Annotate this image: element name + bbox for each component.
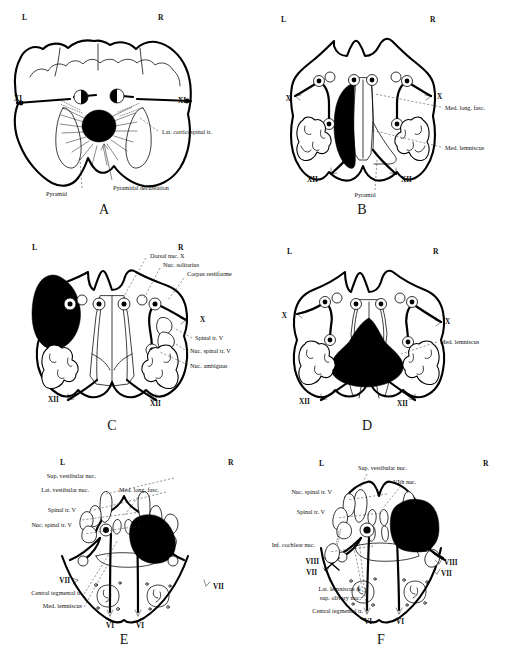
panel-a-right-marker: R xyxy=(158,13,164,22)
panel-c-label-xii-left: XII xyxy=(48,396,59,404)
panel-e: L R xyxy=(0,444,255,653)
panel-b: L R xyxy=(255,0,510,220)
panel-c-right-marker: R xyxy=(178,243,184,252)
panel-b-label-x-left: X xyxy=(286,95,292,103)
panel-d: L R xyxy=(255,222,510,440)
panel-e-nuc-spinal-tr-v-left xyxy=(82,526,97,543)
panel-d-label-xii-right: XII xyxy=(397,400,408,408)
panel-b-label-x-right: X xyxy=(437,93,443,101)
panel-a-label-lat-corticospinal-tr: Lat. corticospinal tr. xyxy=(162,128,212,135)
panel-f-label-viii-left: VIII xyxy=(305,558,319,566)
panel-c-label-dorsal-nuc-x: Dorsal nuc. X xyxy=(150,252,185,259)
panel-a-left-marker: L xyxy=(22,13,27,22)
panel-e-abducens-tract-right xyxy=(137,534,138,612)
panel-e-label-vi-right: VI xyxy=(136,622,144,630)
panel-f-label-central-tegmental-tr: Central tegmental tr. xyxy=(312,607,363,614)
panel-f-label-viii-right: VIII xyxy=(444,559,458,567)
panel-d-label-med-lemniscus: Med. lemniscus xyxy=(440,338,480,345)
panel-a-label-xi-left: XI xyxy=(14,95,22,103)
panel-b-nucdot-right-a xyxy=(405,79,410,84)
panel-b-label-xii-right: XII xyxy=(401,176,412,184)
panel-e-facial-genu-dot-left xyxy=(103,527,109,533)
panel-c-hypoglossal-dot-left xyxy=(97,302,102,307)
panel-b-hypoglossal-dot-left xyxy=(352,78,357,83)
panel-f-label-vith-nuc: VIth nuc. xyxy=(393,478,417,485)
panel-b-caption: B xyxy=(357,202,366,217)
panel-e-label-med-lemniscus: Med. lemniscus xyxy=(43,602,83,609)
panel-e-right-marker: R xyxy=(228,458,234,467)
panel-e-abducens-tract-left xyxy=(110,534,111,612)
panel-f-abducens-nuc-right-b xyxy=(382,526,389,541)
figure-plate: L R xyxy=(0,0,510,653)
panel-e-label-nuc-spinal-tr-v: Nuc. spinal tr. V xyxy=(31,521,72,528)
panel-b-label-pyramid: Pyramid xyxy=(355,191,377,198)
panel-e-label-sup-vestibular-nuc: Sup. vestibular nuc. xyxy=(47,472,97,479)
panel-f-caption: F xyxy=(377,632,385,647)
panel-a-label-xi-right: XI xyxy=(178,97,186,105)
panel-b-hypoglossal-dot-right xyxy=(370,78,375,83)
panel-c-label-xii-right: XII xyxy=(150,400,161,408)
panel-e-label-vii-right: VII xyxy=(213,583,224,591)
panel-f-label-lat-lemniscus: Lat. lemniscus & xyxy=(319,585,362,592)
panel-f-label-nuc-spinal-tr-v: Nuc. spinal tr. V xyxy=(291,488,332,495)
panel-c: L R xyxy=(0,222,255,440)
panel-d-nucdot-left-a xyxy=(323,300,328,305)
panel-e-vii-right-arrow xyxy=(204,580,210,586)
panel-f-left-marker: L xyxy=(319,459,324,468)
panel-a-caption: A xyxy=(99,202,110,217)
panel-b-nucdot-left-a xyxy=(317,79,322,84)
panel-a-pyramidal-decussation-mass xyxy=(82,110,116,142)
panel-f-label-vi-right: VI xyxy=(396,618,404,626)
panel-f-label-sup-vestibular-nuc: Sup. vestibular nuc. xyxy=(358,464,408,471)
panel-a-label-pyramidal-decussation: Pyramidal decussation xyxy=(113,184,169,191)
panel-a-label-pyramid: Pyramid xyxy=(46,190,68,197)
panel-d-nucdot-right-c xyxy=(406,340,411,345)
panel-d-left-marker: L xyxy=(287,247,292,256)
panel-f-label-vii-left: VII xyxy=(306,569,317,577)
panel-d-label-xii-left: XII xyxy=(299,398,310,406)
panel-c-label-nuc-solitarius: Nuc. solitarius xyxy=(163,261,200,268)
panel-e-label-spinal-tr-v: Spinal tr. V xyxy=(48,506,77,513)
panel-f-label-sup-olivary-nuc: sup. olivary nuc. xyxy=(320,594,362,601)
panel-b-label-xii-left: XII xyxy=(307,176,318,184)
panel-b-label-med-long-fasc: Med. long. fasc. xyxy=(445,104,485,111)
panel-f-abducens-nuc-right xyxy=(380,510,388,526)
panel-e-label-lat-vestibular-nuc: Lat. vestibular nuc. xyxy=(41,486,89,493)
panel-d-label-x-left: X xyxy=(282,312,288,320)
panel-c-nucdot-right-a xyxy=(153,302,158,307)
panel-c-nucleus-left-b xyxy=(77,295,87,305)
panel-f-label-spinal-tr-v: Spinal tr. V xyxy=(297,508,326,515)
panel-e-label-vii-left: VII xyxy=(59,577,70,585)
panel-c-nucdot-left-a xyxy=(68,302,73,307)
panel-f-right-marker: R xyxy=(483,459,489,468)
panel-d-nucleus-right-b xyxy=(395,293,405,303)
panel-c-label-corpus-restiforme: Corpus restiforme xyxy=(187,270,232,277)
panel-e-label-central-tegmental-tr: Central tegmental tr. xyxy=(31,589,82,596)
panel-d-nucleus-left-b xyxy=(332,293,342,303)
panel-f: L R xyxy=(255,444,510,653)
panel-b-nucleus-left-b xyxy=(325,72,335,82)
panel-e-caption: E xyxy=(120,632,129,647)
panel-e-left-marker: L xyxy=(60,458,65,467)
panel-f-label-vii-right: VII xyxy=(441,570,452,578)
panel-e-facial-nuc-right xyxy=(168,556,178,566)
panel-c-label-nuc-spinal-tr-v: Nuc. spinal tr. V xyxy=(190,347,231,354)
panel-b-right-marker: R xyxy=(430,15,436,24)
panel-f-facial-genu-dot-left xyxy=(363,526,370,533)
panel-d-nucdot-right-a xyxy=(410,300,415,305)
panel-b-label-med-lemniscus: Med. lemniscus xyxy=(445,144,485,151)
panel-f-spinal-nuc-left-b xyxy=(337,522,352,539)
panel-e-mlf-left xyxy=(113,519,121,534)
panel-b-nucdot-left-c xyxy=(327,122,332,127)
panel-f-inf-cochlear-nuc-left xyxy=(325,544,340,563)
panel-d-nucdot-left-c xyxy=(328,338,333,343)
panel-d-hypoglossal-dot-right xyxy=(379,302,384,307)
panel-d-hypoglossal-dot-left xyxy=(354,302,359,307)
panel-d-label-x-right: X xyxy=(445,318,451,326)
panel-c-label-nuc-ambiguus: Nuc. ambiguus xyxy=(190,362,228,369)
panel-c-hypoglossal-dot-right xyxy=(122,302,127,307)
panel-c-nucleus-right-b xyxy=(137,295,147,305)
panel-f-label-inf-cochlear-nuc: Inf. cochlear nuc. xyxy=(272,541,316,548)
panel-c-left-marker: L xyxy=(32,243,37,252)
panel-a: L R xyxy=(0,0,255,220)
